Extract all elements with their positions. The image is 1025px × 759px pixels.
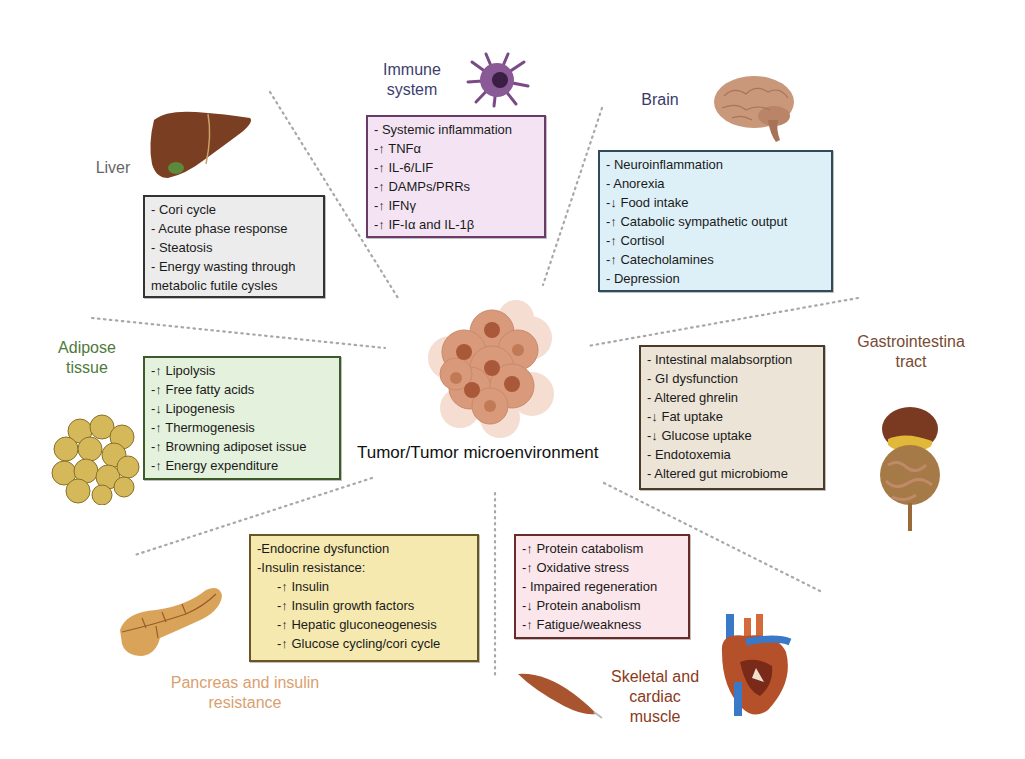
pancreas-label: Pancreas and insulin resistance: [150, 673, 340, 713]
gi-item: - Endotoxemia: [647, 445, 817, 464]
gi-item: -↓ Glucose uptake: [647, 426, 817, 445]
brain-item: - Anorexia: [606, 174, 825, 193]
liver-icon: [146, 108, 256, 183]
liver-item: - Steatosis: [151, 238, 317, 257]
liver-item: - Cori cycle: [151, 200, 317, 219]
liver-item: - Acute phase response: [151, 219, 317, 238]
heart-icon: [716, 612, 796, 722]
brain-effects-box: - Neuroinflammation - Anorexia -↓ Food i…: [598, 150, 833, 292]
adipose-effects-box: -↑ Lipolysis -↑ Free fatty acids -↓ Lipo…: [143, 356, 341, 480]
pancreas-effects-box: -Endocrine dysfunction -Insulin resistan…: [249, 534, 479, 662]
connector-adipose: [92, 318, 385, 348]
diagram-canvas: Immune system - Systemic inflammation -↑…: [0, 0, 1025, 759]
muscle-label-line1: Skeletal and: [600, 667, 710, 687]
gi-effects-box: - Intestinal malabsorption - GI dysfunct…: [639, 345, 825, 490]
pancreas-icon: [116, 582, 226, 662]
pancreas-subitem: -↑ Glucose cycling/cori cycle: [257, 634, 471, 653]
gi-tract-label: Gastrointestina tract: [846, 332, 976, 372]
tumor-icon: [420, 298, 560, 438]
gi-label-line1: Gastrointestina: [846, 332, 976, 352]
connector-brain: [543, 108, 602, 285]
muscle-label: Skeletal and cardiac muscle: [600, 667, 710, 727]
muscle-effects-box: -↑ Protein catabolism -↑ Oxidative stres…: [514, 534, 690, 639]
adipose-item: -↓ Lipogenesis: [151, 399, 333, 418]
muscle-item: -↑ Fatigue/weakness: [522, 615, 682, 634]
gi-item: - GI dysfunction: [647, 369, 817, 388]
pancreas-subitem: -↑ Insulin growth factors: [257, 596, 471, 615]
adipose-label: Adipose tissue: [52, 338, 122, 378]
adipose-label-line1: Adipose: [52, 338, 122, 358]
pancreas-item: -Insulin resistance:: [257, 558, 471, 577]
gi-item: - Altered gut microbiome: [647, 464, 817, 483]
immune-item: -↑ DAMPs/PRRs: [374, 177, 538, 196]
muscle-label-line3: muscle: [600, 707, 710, 727]
adipose-item: -↑ Thermogenesis: [151, 418, 333, 437]
immune-cell-icon: [462, 50, 532, 110]
muscle-label-line2: cardiac: [600, 687, 710, 707]
adipose-item: -↑ Free fatty acids: [151, 380, 333, 399]
adipose-item: -↑ Lipolysis: [151, 361, 333, 380]
brain-label: Brain: [625, 90, 695, 110]
gi-label-line2: tract: [846, 352, 976, 372]
adipose-cells-icon: [50, 413, 140, 505]
immune-item: - Systemic inflammation: [374, 120, 538, 139]
brain-item: -↑ Catecholamines: [606, 250, 825, 269]
immune-label-line1: Immune: [372, 60, 452, 80]
brain-icon: [712, 74, 800, 146]
brain-item: -↑ Catabolic sympathetic output: [606, 212, 825, 231]
muscle-item: -↓ Protein anabolism: [522, 596, 682, 615]
brain-item: - Depression: [606, 269, 825, 288]
muscle-item: -↑ Protein catabolism: [522, 539, 682, 558]
liver-item: metabolic futile cysles: [151, 276, 317, 295]
brain-item: -↓ Food intake: [606, 193, 825, 212]
adipose-label-line2: tissue: [52, 358, 122, 378]
adipose-item: -↑ Browning adiposet issue: [151, 437, 333, 456]
liver-effects-box: - Cori cycle - Acute phase response - St…: [143, 195, 325, 298]
gi-item: - Intestinal malabsorption: [647, 350, 817, 369]
gi-tract-icon: [876, 405, 946, 537]
adipose-item: -↑ Energy expenditure: [151, 456, 333, 475]
connector-gi: [588, 298, 858, 346]
pancreas-label-line2: resistance: [150, 693, 340, 713]
gi-item: - Altered ghrelin: [647, 388, 817, 407]
tumor-microenvironment-label: Tumor/Tumor microenvironment: [357, 443, 599, 463]
gi-item: -↓ Fat uptake: [647, 407, 817, 426]
brain-item: -↑ Cortisol: [606, 231, 825, 250]
pancreas-subitem: -↑ Insulin: [257, 577, 471, 596]
immune-item: -↑ IFNγ: [374, 196, 538, 215]
immune-system-label: Immune system: [372, 60, 452, 100]
muscle-item: - Impaired regeneration: [522, 577, 682, 596]
brain-item: - Neuroinflammation: [606, 155, 825, 174]
immune-item: -↑ IF-Iα and IL-1β: [374, 215, 538, 234]
skeletal-muscle-icon: [514, 668, 604, 720]
pancreas-item: -Endocrine dysfunction: [257, 539, 471, 558]
immune-effects-box: - Systemic inflammation -↑ TNFα -↑ IL-6/…: [366, 115, 546, 238]
liver-item: - Energy wasting through: [151, 257, 317, 276]
muscle-item: -↑ Oxidative stress: [522, 558, 682, 577]
immune-label-line2: system: [372, 80, 452, 100]
pancreas-subitem: -↑ Hepatic gluconeogenesis: [257, 615, 471, 634]
liver-label: Liver: [88, 158, 138, 178]
immune-item: -↑ IL-6/LIF: [374, 158, 538, 177]
immune-item: -↑ TNFα: [374, 139, 538, 158]
pancreas-label-line1: Pancreas and insulin: [150, 673, 340, 693]
